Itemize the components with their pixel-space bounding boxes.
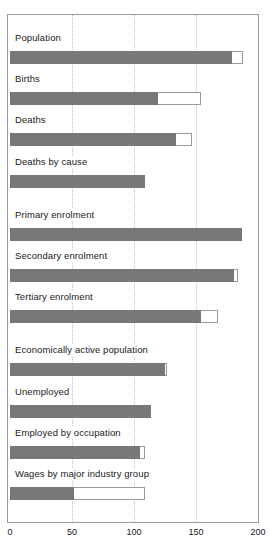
- bar-value-fill: [10, 446, 140, 459]
- bar-value-fill: [10, 51, 232, 64]
- x-tick-label-200: 200: [250, 527, 265, 538]
- bar-label: Population: [15, 32, 64, 44]
- bar-value-fill: [10, 269, 234, 282]
- bar-row: Population: [8, 32, 258, 64]
- bar-value-fill: [10, 405, 151, 418]
- bar-label: Births: [15, 73, 43, 85]
- bar-row: Births: [8, 73, 258, 105]
- bar-label: Deaths: [15, 114, 49, 126]
- bar-label: Secondary enrolment: [15, 250, 110, 262]
- bar-value-fill: [10, 92, 158, 105]
- bar-row: Tertiary enrolment: [8, 291, 258, 323]
- bar-row: Deaths: [8, 114, 258, 146]
- x-tick-label-0: 0: [7, 527, 12, 538]
- bar-value-fill: [10, 310, 201, 323]
- bar-value-fill: [10, 175, 145, 188]
- bar-value-fill: [10, 133, 176, 146]
- x-tick-label-100: 100: [126, 527, 141, 538]
- x-axis: 050100150200: [0, 523, 270, 547]
- bar-row: Unemployed: [8, 386, 258, 418]
- bar-label: Employed by occupation: [15, 427, 124, 439]
- bar-row: Wages by major industry group: [8, 468, 258, 500]
- bar-row: Deaths by cause: [8, 156, 258, 188]
- bar-label: Deaths by cause: [15, 156, 90, 168]
- bar-value-fill: [10, 363, 165, 376]
- bar-label: Primary enrolment: [15, 209, 97, 221]
- x-tick-label-150: 150: [188, 527, 203, 538]
- plot-area: PopulationBirthsDeathsDeaths by causePri…: [7, 14, 259, 523]
- horizontal-bar-chart: PopulationBirthsDeathsDeaths by causePri…: [0, 0, 270, 547]
- bar-row: Primary enrolment: [8, 209, 258, 241]
- bar-row: Economically active population: [8, 344, 258, 376]
- bar-row: Secondary enrolment: [8, 250, 258, 282]
- x-tick-label-50: 50: [67, 527, 77, 538]
- bar-rows: PopulationBirthsDeathsDeaths by causePri…: [8, 15, 258, 522]
- bar-row: Employed by occupation: [8, 427, 258, 459]
- bar-label: Tertiary enrolment: [15, 291, 96, 303]
- bar-label: Unemployed: [15, 386, 72, 398]
- bar-value-fill: [10, 487, 74, 500]
- bar-value-fill: [10, 228, 242, 241]
- bar-label: Economically active population: [15, 344, 151, 356]
- bar-label: Wages by major industry group: [15, 468, 152, 480]
